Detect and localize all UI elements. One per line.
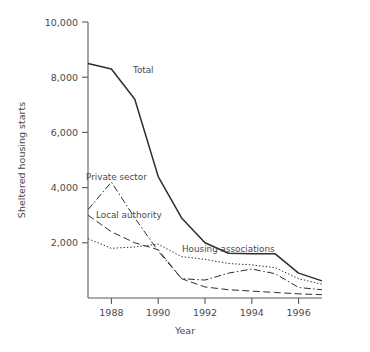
series-line-private-sector: [88, 182, 322, 290]
y-axis-ticks: 2,0004,0006,0008,00010,000: [45, 17, 88, 249]
annotation-private-sector: Private sector: [86, 172, 147, 182]
y-axis-title: Sheltered housing starts: [16, 102, 27, 218]
y-tick-label: 4,000: [51, 182, 78, 193]
series-line-local-authority: [88, 215, 322, 294]
x-tick-label: 1994: [240, 307, 264, 318]
sheltered-housing-starts-chart: 2,0004,0006,0008,00010,000 1988199019921…: [0, 0, 370, 352]
annotation-housing-associations: Housing associations: [182, 244, 275, 254]
x-tick-label: 1990: [146, 307, 170, 318]
annotation-local-authority: Local authority: [96, 210, 162, 220]
annotation-total: Total: [132, 65, 154, 75]
y-tick-label: 8,000: [51, 72, 78, 83]
y-tick-label: 10,000: [45, 17, 78, 28]
x-tick-label: 1988: [99, 307, 123, 318]
chart-canvas: 2,0004,0006,0008,00010,000 1988199019921…: [0, 0, 370, 352]
y-tick-label: 6,000: [51, 127, 78, 138]
x-tick-label: 1992: [193, 307, 217, 318]
x-axis-ticks: 19881990199219941996: [99, 298, 310, 318]
series-annotations: TotalPrivate sectorLocal authorityHousin…: [86, 65, 275, 254]
x-axis-title: Year: [174, 325, 195, 336]
x-tick-label: 1996: [287, 307, 311, 318]
y-tick-label: 2,000: [51, 237, 78, 248]
